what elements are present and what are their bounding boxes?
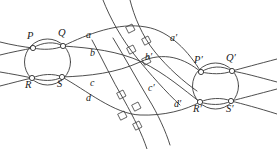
label-Q: Q bbox=[58, 28, 66, 39]
label-S-prime: S′ bbox=[226, 104, 234, 115]
label-curve-d: d bbox=[86, 93, 91, 103]
label-curve-c-prime: c′ bbox=[148, 83, 155, 93]
transverse-lower-right bbox=[113, 38, 170, 145]
right-arc-RS-upper bbox=[200, 98, 231, 102]
right-angle-mark bbox=[126, 24, 135, 33]
left-arc-PQ-lower bbox=[33, 46, 63, 49]
stub-Qp-upper bbox=[232, 59, 277, 71]
label-curve-c: c bbox=[90, 78, 94, 88]
stub-Sp-lower bbox=[231, 101, 277, 114]
figure-canvas: P Q R S P′ Q′ R′ S′ a b c d a′ b′ c′ d′ bbox=[0, 0, 277, 149]
stub-P-lower bbox=[0, 48, 33, 55]
label-curve-b-prime: b′ bbox=[145, 52, 152, 62]
diagram-svg bbox=[0, 0, 277, 149]
curve-b-to-bp bbox=[63, 46, 200, 102]
label-curve-b: b bbox=[90, 48, 95, 58]
label-curve-d-prime: d′ bbox=[174, 99, 181, 109]
transverse-curves-lower bbox=[92, 38, 170, 149]
label-curve-a: a bbox=[86, 30, 91, 40]
transverse-upper-right bbox=[130, 0, 197, 91]
right-arc-PQ-lower bbox=[201, 71, 232, 74]
stub-P-upper bbox=[0, 42, 33, 48]
label-P: P bbox=[27, 31, 33, 42]
curve-c-to-cp bbox=[62, 57, 201, 77]
label-R: R bbox=[25, 80, 31, 91]
label-R-prime: R′ bbox=[193, 104, 202, 115]
stub-Qp-lower bbox=[232, 71, 277, 82]
label-P-prime: P′ bbox=[194, 55, 203, 66]
right-stubs bbox=[231, 59, 277, 114]
node-P bbox=[30, 45, 35, 50]
node-Q bbox=[60, 43, 65, 48]
label-S: S bbox=[57, 79, 62, 90]
right-angle-mark bbox=[117, 90, 126, 99]
node-Q-prime bbox=[229, 68, 234, 73]
node-P-prime bbox=[198, 69, 203, 74]
left-arc-PQ-upper bbox=[33, 43, 63, 48]
transverse-lower-left bbox=[92, 40, 147, 149]
right-arc-PQ-upper bbox=[201, 67, 232, 72]
label-Q-prime: Q′ bbox=[226, 53, 236, 64]
label-curve-a-prime: a′ bbox=[170, 33, 177, 43]
curve-d-to-dp bbox=[62, 77, 200, 115]
right-angle-mark bbox=[132, 102, 141, 111]
